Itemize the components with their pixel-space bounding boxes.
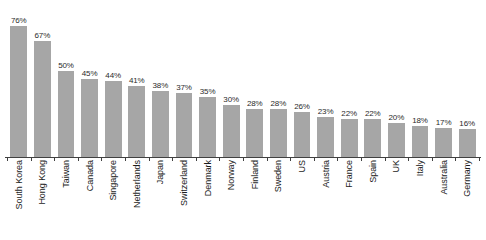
bar-rect [294, 112, 311, 157]
category-label-spain: Spain [364, 160, 381, 240]
axis-tick [432, 158, 433, 161]
bar-value-label: 22% [341, 109, 357, 118]
bar-rect [10, 26, 27, 157]
bar-value-label: 23% [318, 107, 334, 116]
category-label-text: US [297, 160, 307, 172]
category-label-france: France [341, 160, 358, 240]
bar-australia: 17% [435, 0, 452, 157]
axis-tick [385, 158, 386, 161]
bar-rect [105, 81, 122, 157]
bar-sweden: 28% [270, 0, 287, 157]
category-label-taiwan: Taiwan [58, 160, 75, 240]
bar-value-label: 41% [129, 76, 145, 85]
bar-value-label: 17% [436, 118, 452, 127]
category-label-text: Netherlands [132, 160, 142, 208]
category-label-text: Norway [226, 160, 236, 190]
bar-switzerland: 37% [176, 0, 193, 157]
plot-area: 76%67%50%45%44%41%38%37%35%30%28%28%26%2… [7, 0, 479, 157]
bar-value-label: 22% [365, 109, 381, 118]
category-label-finland: Finland [246, 160, 263, 240]
axis-tick [7, 158, 8, 161]
category-label-denmark: Denmark [199, 160, 216, 240]
bar-us: 26% [294, 0, 311, 157]
bar-france: 22% [341, 0, 358, 157]
category-label-text: Finland [250, 160, 260, 189]
category-label-us: US [294, 160, 311, 240]
bar-rect [223, 105, 240, 157]
category-label-uk: UK [388, 160, 405, 240]
category-label-italy: Italy [412, 160, 429, 240]
bar-value-label: 28% [247, 99, 263, 108]
bar-rect [270, 109, 287, 157]
axis-tick [101, 158, 102, 161]
category-label-text: Taiwan [61, 160, 71, 188]
bar-rect [176, 93, 193, 157]
bar-value-label: 45% [82, 69, 98, 78]
category-label-text: Italy [415, 160, 425, 176]
bar-norway: 30% [223, 0, 240, 157]
bar-rect [317, 117, 334, 157]
bar-value-label: 38% [153, 81, 169, 90]
category-label-text: Japan [155, 160, 165, 184]
bar-uk: 20% [388, 0, 405, 157]
bar-value-label: 20% [389, 113, 405, 122]
bar-rect [435, 128, 452, 157]
axis-tick [455, 158, 456, 161]
category-label-australia: Australia [435, 160, 452, 240]
category-label-text: Singapore [108, 160, 118, 201]
axis-tick [243, 158, 244, 161]
category-label-text: UK [391, 160, 401, 172]
bar-rect [128, 86, 145, 157]
category-label-text: Switzerland [179, 160, 189, 206]
bar-rect [412, 126, 429, 157]
axis-tick [361, 158, 362, 161]
bar-rect [459, 129, 476, 157]
bar-rect [34, 41, 51, 157]
axis-tick [219, 158, 220, 161]
category-label-south-korea: South Korea [10, 160, 27, 240]
category-label-text: France [344, 160, 354, 188]
category-label-text: Australia [439, 160, 449, 195]
category-label-germany: Germany [459, 160, 476, 240]
bar-canada: 45% [81, 0, 98, 157]
axis-tick [479, 158, 480, 161]
bar-rect [246, 109, 263, 157]
bar-value-label: 16% [459, 119, 475, 128]
bar-value-label: 37% [176, 83, 192, 92]
axis-tick [337, 158, 338, 161]
category-label-switzerland: Switzerland [176, 160, 193, 240]
bar-singapore: 44% [105, 0, 122, 157]
axis-tick [31, 158, 32, 161]
bar-chart: 76%67%50%45%44%41%38%37%35%30%28%28%26%2… [0, 0, 486, 240]
axis-tick [125, 158, 126, 161]
category-label-singapore: Singapore [105, 160, 122, 240]
category-label-text: Hong Kong [37, 160, 47, 205]
category-axis: South KoreaHong KongTaiwanCanadaSingapor… [7, 160, 479, 240]
axis-tick [267, 158, 268, 161]
bar-value-label: 18% [412, 116, 428, 125]
category-label-text: Austria [321, 160, 331, 188]
bar-value-label: 26% [294, 102, 310, 111]
bar-taiwan: 50% [58, 0, 75, 157]
bar-germany: 16% [459, 0, 476, 157]
bar-rect [199, 97, 216, 157]
category-label-sweden: Sweden [270, 160, 287, 240]
axis-tick [172, 158, 173, 161]
bar-rect [364, 119, 381, 157]
category-label-canada: Canada [81, 160, 98, 240]
category-label-japan: Japan [152, 160, 169, 240]
category-label-hong-kong: Hong Kong [34, 160, 51, 240]
category-label-norway: Norway [223, 160, 240, 240]
axis-tick [314, 158, 315, 161]
bar-denmark: 35% [199, 0, 216, 157]
bar-italy: 18% [412, 0, 429, 157]
bar-value-label: 28% [271, 99, 287, 108]
bar-rect [58, 71, 75, 157]
bar-value-label: 50% [58, 61, 74, 70]
bar-value-label: 76% [11, 16, 27, 25]
bar-value-label: 44% [105, 71, 121, 80]
bar-south-korea: 76% [10, 0, 27, 157]
axis-tick [54, 158, 55, 161]
category-label-text: Canada [85, 160, 95, 191]
axis-tick [290, 158, 291, 161]
